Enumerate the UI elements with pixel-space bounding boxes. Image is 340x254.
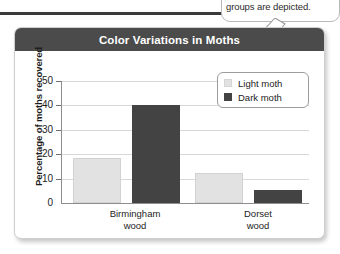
x-axis-line — [61, 203, 309, 204]
page-title: Color Variations in Moths — [99, 34, 240, 46]
y-axis-label: Percentage of moths recovered — [33, 47, 44, 187]
x-tick-label-birmingham-line2: wood — [75, 220, 195, 232]
bar-birmingham-light-moth[interactable] — [73, 158, 121, 203]
callout-text: groups are depicted. — [226, 1, 338, 12]
y-tick-label-50: 50 — [29, 75, 53, 86]
y-tick-label-30: 30 — [29, 124, 53, 135]
legend-item-dark-moth[interactable]: Dark moth — [224, 90, 308, 104]
page-divider-rule — [0, 12, 222, 15]
legend-swatch-dark-icon — [224, 93, 232, 101]
plot-area: Percentage of moths recovered 50 40 30 2… — [15, 51, 324, 238]
y-tick-label-40: 40 — [29, 99, 53, 110]
y-tick-label-20: 20 — [29, 148, 53, 159]
bar-dorset-light-moth[interactable] — [195, 173, 243, 204]
chart-legend: Light moth Dark moth — [217, 72, 309, 108]
legend-swatch-light-icon — [224, 79, 232, 87]
legend-label-dark-moth: Dark moth — [238, 92, 282, 103]
legend-item-light-moth[interactable]: Light moth — [224, 76, 308, 90]
chart-card: Color Variations in Moths Percentage of … — [14, 27, 325, 239]
x-tick-label-birmingham: Birmingham wood — [75, 208, 195, 231]
chart-header: Color Variations in Moths — [15, 28, 324, 51]
x-tick-label-dorset-line1: Dorset — [198, 208, 318, 220]
legend-label-light-moth: Light moth — [238, 78, 282, 89]
x-tick-label-dorset: Dorset wood — [198, 208, 318, 231]
x-tick-label-birmingham-line1: Birmingham — [75, 208, 195, 220]
y-tick-label-0: 0 — [29, 197, 53, 208]
bar-dorset-dark-moth[interactable] — [254, 190, 302, 203]
x-tick-label-dorset-line2: wood — [198, 220, 318, 232]
y-tick-label-10: 10 — [29, 173, 53, 184]
bar-birmingham-dark-moth[interactable] — [132, 105, 180, 203]
